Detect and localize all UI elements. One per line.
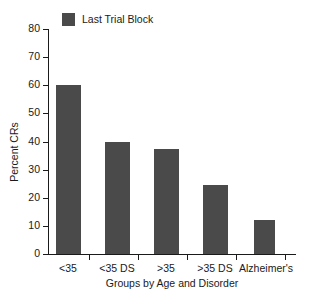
y-tick-10: 10 [43,226,48,227]
bar-gt35-ds [203,185,228,254]
x-category-label-lt35-ds: <35 DS [99,262,134,274]
y-tick-label-50: 50 [28,107,40,118]
y-tick-40: 40 [43,142,48,143]
bar-lt35 [56,85,81,254]
x-tick-4 [236,255,237,260]
x-category-label-lt35: <35 [59,262,77,274]
x-tick-1 [89,255,90,260]
y-tick-label-80: 80 [28,23,40,34]
bar-lt35-ds [105,142,130,255]
chart-legend: Last Trial Block [62,13,153,26]
x-tick-3 [187,255,188,260]
y-tick-label-40: 40 [28,136,40,147]
y-axis-line [48,29,49,255]
y-tick-30: 30 [43,170,48,171]
y-tick-label-20: 20 [28,192,40,203]
legend-swatch-last-trial-block [62,13,75,26]
y-tick-label-10: 10 [28,220,40,231]
y-tick-20: 20 [43,198,48,199]
x-category-label-alzheimers: Alzheimer's [239,262,293,274]
y-tick-0: 0 [43,254,48,255]
bar-alzheimers [254,220,275,254]
x-tick-5 [285,255,286,260]
x-axis-title: Groups by Age and Disorder [48,277,296,289]
y-tick-80: 80 [43,29,48,30]
x-tick-2 [138,255,139,260]
y-tick-label-70: 70 [28,51,40,62]
bar-gt35 [154,149,179,255]
legend-label-last-trial-block: Last Trial Block [82,14,153,25]
y-axis-title: Percent CRs [8,52,22,252]
x-category-label-gt35-ds: >35 DS [197,262,232,274]
y-tick-60: 60 [43,85,48,86]
plot-area: 80 70 60 50 40 30 20 10 0 <35 <35 DS >35… [48,29,296,254]
x-axis-line [48,254,296,255]
bar-chart-figure: Last Trial Block Percent CRs 80 70 60 50… [0,0,311,307]
y-tick-label-60: 60 [28,79,40,90]
y-tick-50: 50 [43,113,48,114]
y-tick-label-0: 0 [34,248,40,259]
y-tick-70: 70 [43,57,48,58]
x-category-label-gt35: >35 [157,262,175,274]
y-tick-label-30: 30 [28,164,40,175]
